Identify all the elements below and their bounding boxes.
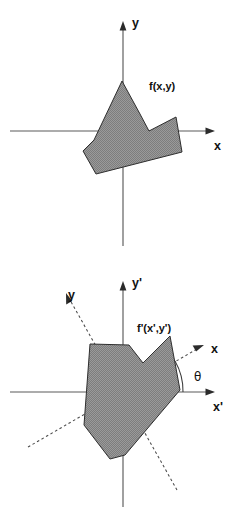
x-prime-axis-label: x' (213, 400, 223, 414)
theta-angle-label: θ (194, 370, 201, 384)
object-label-f-prime: f'(x',y') (137, 322, 171, 334)
x-axis-rotated-arrowhead (193, 345, 204, 351)
y-axis-arrowhead (120, 21, 127, 31)
object-region-f-prime (84, 336, 180, 459)
object-label-f: f(x,y) (149, 80, 176, 92)
y-prime-axis-arrowhead (120, 281, 127, 291)
panel-unrotated-coordinate-system: y x f(x,y) (0, 0, 247, 259)
rotation-diagram-figure: y x f(x,y) (0, 0, 247, 518)
y-prime-axis-label: y' (132, 276, 142, 290)
object-region-f (83, 81, 182, 174)
x-prime-axis-arrowhead (206, 389, 216, 396)
panel-rotated-coordinate-system: y' x' y x θ f'(x',y') (0, 259, 247, 518)
x-axis-label: x (214, 139, 221, 153)
y-axis-label: y (132, 16, 139, 30)
y-axis-rotated-label: y (68, 288, 75, 302)
x-axis-arrowhead (206, 128, 216, 135)
x-axis-rotated-label: x (211, 342, 218, 356)
